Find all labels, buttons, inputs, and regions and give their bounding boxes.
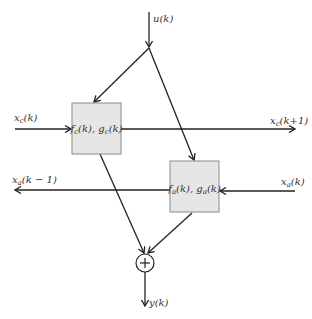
xc-output-label: xc(k+1)	[270, 115, 308, 128]
block-c: fc(k), gc(k)	[69, 103, 122, 154]
block-diagram: u(k) xc(k) xc(k+1) xa(k) xa(k − 1)	[0, 0, 312, 319]
xa-input-label: xa(k)	[281, 176, 305, 189]
input-u-label: u(k)	[153, 13, 173, 24]
xa-output-label: xa(k − 1)	[12, 174, 57, 187]
diagram-svg: u(k) xc(k) xc(k+1) xa(k) xa(k − 1)	[0, 0, 312, 319]
xc-input-label: xc(k)	[14, 112, 38, 125]
block-a: fa(k), ga(k)	[167, 161, 221, 212]
junction-to-block-a-arrow	[149, 48, 194, 160]
block-c-to-sum-arrow	[100, 154, 144, 253]
block-a-to-sum-arrow	[148, 213, 192, 253]
sum-node	[136, 254, 154, 272]
output-y-label: y(k)	[148, 297, 169, 308]
junction-to-block-c-arrow	[94, 48, 149, 102]
